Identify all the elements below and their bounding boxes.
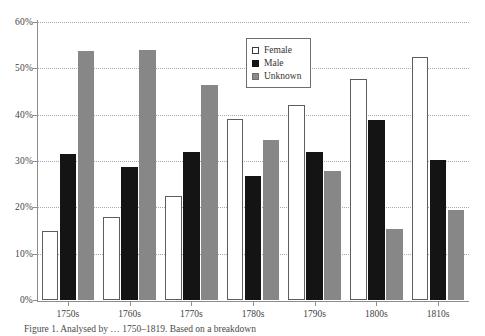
x-axis-tick <box>253 302 254 306</box>
legend-item-unknown: Unknown <box>252 70 301 82</box>
y-axis-tick-label: 60% <box>15 17 33 27</box>
x-axis-tick <box>130 302 131 306</box>
x-axis-tick-label-1800s: 1800s <box>365 309 388 319</box>
bar-group-1750s <box>37 22 99 300</box>
bar-chart: 0%10%20%30%40%50%60% 1750s1760s1770s1780… <box>0 0 485 336</box>
x-axis-tick-label-1780s: 1780s <box>242 309 265 319</box>
bar-1760s-female <box>103 217 120 300</box>
unknown-swatch-icon <box>252 73 259 80</box>
bar-1790s-female <box>288 105 305 300</box>
chart-legend: FemaleMaleUnknown <box>246 38 311 88</box>
bar-1750s-male <box>60 154 77 300</box>
y-axis-tick-label: 20% <box>15 202 33 212</box>
x-axis-tick-label-1810s: 1810s <box>427 309 450 319</box>
male-swatch-icon <box>252 60 259 67</box>
x-axis-tick-label-1770s: 1770s <box>180 309 203 319</box>
bar-1800s-female <box>350 79 367 300</box>
figure-caption: Figure 1. Analysed by … 1750–1819. Based… <box>24 323 474 335</box>
legend-label: Female <box>264 45 292 55</box>
bar-1770s-unknown <box>201 85 218 300</box>
bar-1750s-unknown <box>78 51 95 300</box>
bar-1810s-male <box>430 160 447 300</box>
x-axis-tick <box>68 302 69 306</box>
bar-1750s-female <box>42 231 59 301</box>
x-axis-tick-label-1790s: 1790s <box>303 309 326 319</box>
legend-label: Male <box>264 58 284 68</box>
bar-1800s-unknown <box>386 229 403 300</box>
bar-1800s-male <box>368 120 385 300</box>
y-axis-tick-label: 40% <box>15 110 33 120</box>
legend-label: Unknown <box>264 71 301 81</box>
female-swatch-icon <box>252 47 259 54</box>
x-axis-tick-label-1760s: 1760s <box>118 309 141 319</box>
x-axis-tick-label-1750s: 1750s <box>56 309 79 319</box>
bar-1770s-male <box>183 152 200 300</box>
bar-group-1800s <box>346 22 408 300</box>
y-axis-labels: 0%10%20%30%40%50%60% <box>0 22 33 300</box>
legend-item-female: Female <box>252 44 301 56</box>
legend-item-male: Male <box>252 57 301 69</box>
y-axis-tick-label: 10% <box>15 249 33 259</box>
bar-1810s-unknown <box>448 210 465 300</box>
bar-1780s-female <box>227 119 244 300</box>
x-axis-labels: 1750s1760s1770s1780s1790s1800s1810s <box>37 302 469 322</box>
bar-group-1760s <box>99 22 161 300</box>
bar-1790s-male <box>306 152 323 300</box>
x-axis-tick <box>438 302 439 306</box>
y-axis-tick-label: 0% <box>20 295 33 305</box>
bar-1780s-unknown <box>263 140 280 300</box>
bar-1760s-unknown <box>139 50 156 300</box>
x-axis-tick <box>376 302 377 306</box>
bar-1770s-female <box>165 196 182 300</box>
bar-1760s-male <box>121 167 138 300</box>
y-axis-tick-label: 50% <box>15 63 33 73</box>
bar-1790s-unknown <box>324 171 341 300</box>
bar-1810s-female <box>412 57 429 300</box>
y-axis-tick-label: 30% <box>15 156 33 166</box>
bar-1780s-male <box>245 176 262 300</box>
bar-group-1810s <box>407 22 469 300</box>
bar-group-1770s <box>160 22 222 300</box>
x-axis-tick <box>191 302 192 306</box>
y-axis-tick <box>33 300 37 301</box>
x-axis-tick <box>315 302 316 306</box>
